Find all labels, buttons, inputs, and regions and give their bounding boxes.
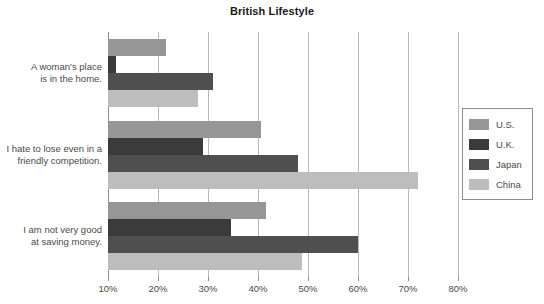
x-tick-label: 50%	[288, 283, 328, 294]
bar-chart: British Lifestyle A woman's placeis in t…	[0, 0, 544, 304]
bar	[108, 121, 261, 138]
category-label-line: I hate to lose even in a	[0, 143, 102, 155]
category-label-line: is in the home.	[0, 73, 102, 85]
category-label-line: A woman's place	[0, 61, 102, 73]
category-label-line: I am not very good	[0, 224, 102, 236]
plot-area	[108, 32, 458, 277]
x-tick-mark	[158, 277, 159, 281]
legend: U.S.U.K.JapanChina	[462, 108, 533, 200]
bar	[108, 138, 203, 155]
bar	[108, 155, 298, 172]
legend-swatch-icon	[469, 159, 489, 170]
bar	[108, 219, 231, 236]
x-tick-label: 10%	[88, 283, 128, 294]
legend-label: U.K.	[496, 139, 514, 150]
x-tick-label: 40%	[238, 283, 278, 294]
x-tick-mark	[308, 277, 309, 281]
bar-group	[108, 39, 458, 107]
legend-label: U.S.	[496, 119, 514, 130]
x-tick-label: 60%	[338, 283, 378, 294]
legend-item-china[interactable]: China	[463, 174, 532, 194]
bar	[108, 172, 418, 189]
legend-item-uk[interactable]: U.K.	[463, 134, 532, 154]
x-tick-mark	[408, 277, 409, 281]
category-label: I hate to lose even in afriendly competi…	[0, 143, 102, 167]
legend-swatch-icon	[469, 179, 489, 190]
bar	[108, 253, 302, 270]
category-label: A woman's placeis in the home.	[0, 61, 102, 85]
x-axis: 10%20%30%40%50%60%70%80%	[108, 277, 458, 303]
x-tick-mark	[208, 277, 209, 281]
legend-label: China	[496, 179, 521, 190]
bar	[108, 90, 198, 107]
category-label: I am not very goodat saving money.	[0, 224, 102, 248]
x-tick-label: 20%	[138, 283, 178, 294]
chart-title: British Lifestyle	[0, 5, 544, 17]
category-label-line: friendly competition.	[0, 155, 102, 167]
legend-label: Japan	[496, 159, 522, 170]
x-tick-mark	[358, 277, 359, 281]
x-tick-mark	[108, 277, 109, 281]
legend-item-us[interactable]: U.S.	[463, 114, 532, 134]
bar	[108, 73, 213, 90]
legend-item-japan[interactable]: Japan	[463, 154, 532, 174]
category-label-line: at saving money.	[0, 236, 102, 248]
x-tick-mark	[458, 277, 459, 281]
bar-group	[108, 202, 458, 270]
x-tick-mark	[258, 277, 259, 281]
x-tick-label: 70%	[388, 283, 428, 294]
bar	[108, 202, 266, 219]
bar	[108, 56, 116, 73]
gridline-80	[458, 32, 459, 277]
legend-swatch-icon	[469, 119, 489, 130]
bar	[108, 236, 358, 253]
x-tick-label: 30%	[188, 283, 228, 294]
bars-layer	[108, 32, 458, 277]
bar-group	[108, 121, 458, 189]
legend-swatch-icon	[469, 139, 489, 150]
bar	[108, 39, 166, 56]
x-tick-label: 80%	[438, 283, 478, 294]
